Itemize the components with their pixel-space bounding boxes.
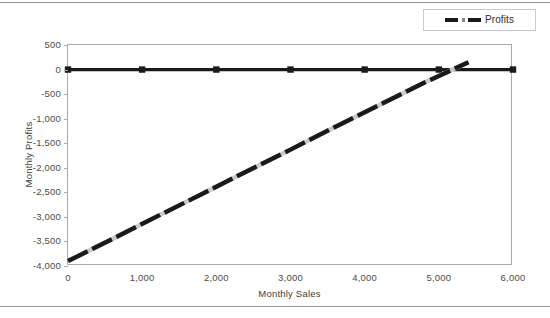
y-axis-tick-label: 0	[56, 63, 61, 76]
zero-series-marker	[287, 66, 293, 72]
x-axis-tick-label: 6,000	[501, 271, 526, 284]
zero-series-marker	[510, 66, 516, 72]
y-axis-tick-label: -3,000	[33, 210, 61, 223]
x-axis-tick-label: 0	[65, 271, 70, 284]
y-axis-tick-label: -2,500	[33, 185, 61, 198]
y-axis-tick-label: -1,000	[33, 112, 61, 125]
top-divider	[0, 2, 550, 3]
y-axis-tick-label: -4,000	[33, 259, 61, 272]
y-axis-tick-label: -1,500	[33, 136, 61, 149]
zero-series-marker	[139, 66, 145, 72]
x-axis-tick-label: 3,000	[278, 271, 303, 284]
zero-series-marker	[436, 66, 442, 72]
zero-series-marker	[213, 66, 219, 72]
x-axis-tick-label: 5,000	[426, 271, 451, 284]
legend-line-swatch-profits	[445, 18, 481, 22]
y-axis-tick-label: -3,500	[33, 234, 61, 247]
bottom-divider	[0, 306, 550, 307]
x-axis-tick-label: 2,000	[204, 271, 229, 284]
data-layer	[68, 45, 513, 266]
series-profits-line	[68, 62, 469, 261]
y-axis-tick-label: 500	[45, 38, 61, 51]
y-axis-tick-label: -500	[41, 87, 61, 100]
x-axis-title: Monthly Sales	[67, 288, 512, 300]
y-axis-tick-label: -2,000	[33, 161, 61, 174]
legend-label-profits: Profits	[485, 15, 514, 25]
chart-page: Profits Monthly Profits Monthly Sales 50…	[0, 0, 550, 318]
y-axis-title: Monthly Profits	[22, 44, 36, 265]
x-axis-tick-label: 1,000	[130, 271, 155, 284]
x-axis-tick-label: 4,000	[352, 271, 377, 284]
chart-legend[interactable]: Profits	[423, 9, 536, 31]
plot-area: 5000-500-1,000-1,500-2,000-2,500-3,000-3…	[67, 44, 512, 265]
zero-series-marker	[361, 66, 367, 72]
